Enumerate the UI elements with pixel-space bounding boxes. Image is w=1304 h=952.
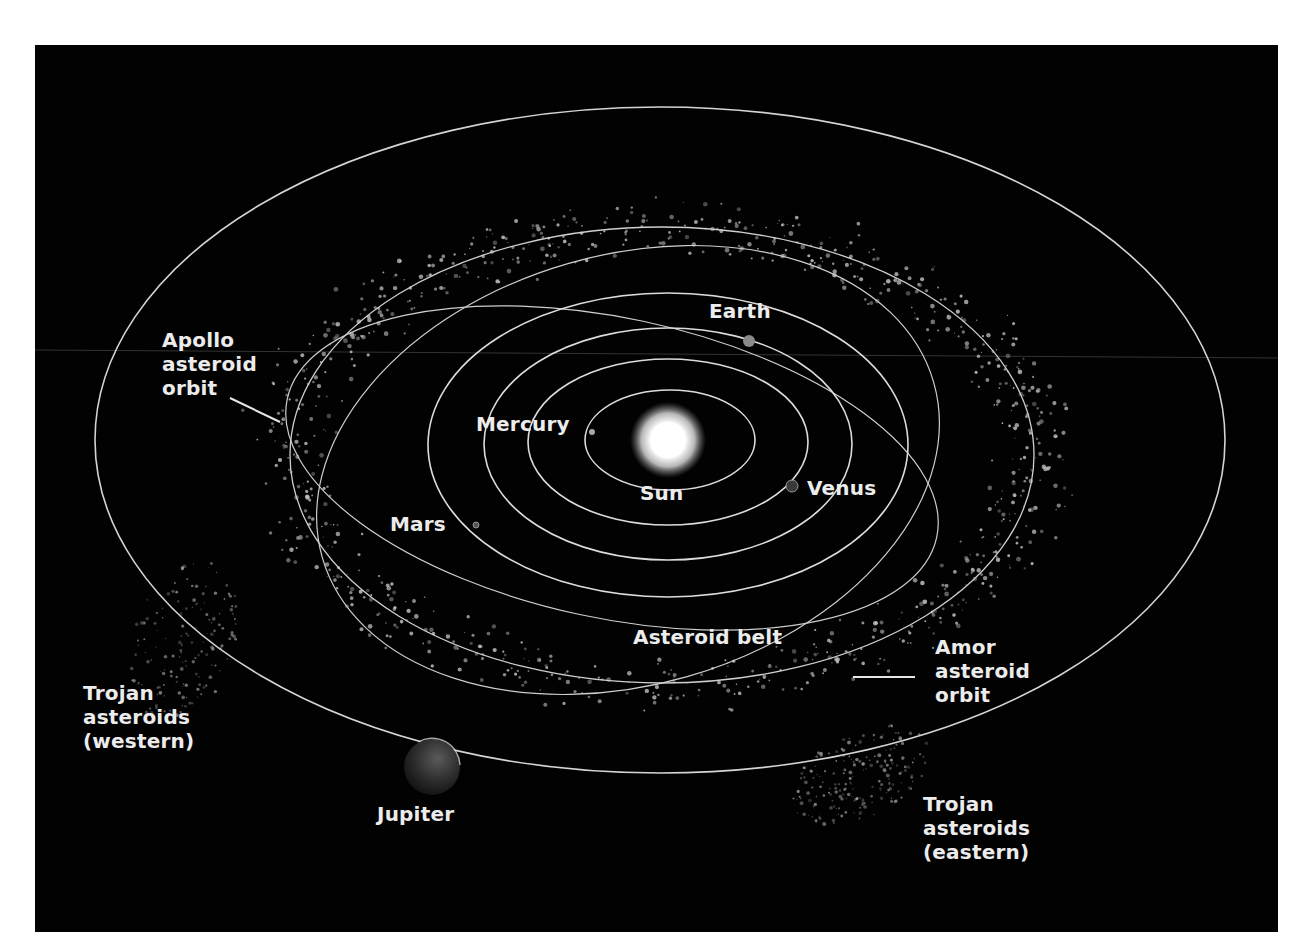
apollo-leader-line — [230, 398, 280, 422]
venus-icon — [786, 480, 798, 492]
label-asteroid-belt: Asteroid belt — [633, 625, 782, 649]
label-mars: Mars — [390, 512, 446, 536]
label-mercury: Mercury — [476, 412, 570, 436]
label-trojan-western: Trojan asteroids (western) — [83, 681, 194, 753]
apollo-orbit — [256, 252, 968, 683]
jupiter-icon — [404, 739, 460, 795]
label-apollo-orbit: Apollo asteroid orbit — [162, 328, 257, 400]
label-trojan-eastern: Trojan asteroids (eastern) — [923, 792, 1030, 864]
label-earth: Earth — [709, 299, 771, 323]
label-jupiter: Jupiter — [377, 802, 454, 826]
mars-icon — [473, 522, 479, 528]
label-sun: Sun — [640, 481, 683, 505]
mercury-icon — [589, 429, 595, 435]
earth-icon — [743, 335, 755, 347]
label-amor-orbit: Amor asteroid orbit — [935, 635, 1030, 707]
diagram-panel: Sun Mercury Venus Earth Mars Jupiter Ast… — [35, 45, 1278, 932]
label-venus: Venus — [807, 476, 876, 500]
